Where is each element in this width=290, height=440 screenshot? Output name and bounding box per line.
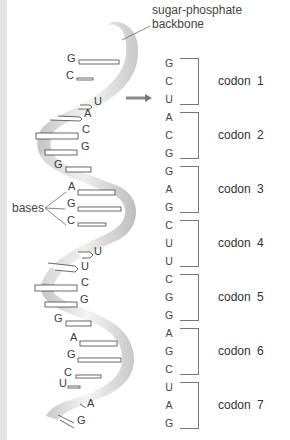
sequence-base: G bbox=[164, 309, 174, 321]
sequence-base: C bbox=[164, 363, 174, 375]
helix-base-9: G bbox=[67, 197, 76, 209]
helix-base-4: A bbox=[84, 107, 91, 119]
helix-base-17: G bbox=[67, 348, 76, 360]
helix-base-21: G bbox=[77, 414, 86, 426]
sequence-base: U bbox=[164, 381, 174, 393]
sequence-base: U bbox=[164, 93, 174, 105]
codon-bracket bbox=[180, 274, 199, 321]
bases-leader-a bbox=[45, 192, 66, 208]
helix-base-2: C bbox=[66, 69, 74, 81]
sequence-base: G bbox=[164, 57, 174, 69]
helix-base-3: U bbox=[94, 95, 102, 107]
helix-base-15: G bbox=[54, 312, 63, 324]
sequence-base: U bbox=[164, 237, 174, 249]
helix-base-11: U bbox=[94, 245, 102, 257]
codon-bracket bbox=[180, 382, 199, 429]
codon-label-1: codon 1 bbox=[218, 74, 264, 88]
bases-leader-c bbox=[45, 208, 66, 225]
sequence-base: A bbox=[164, 399, 174, 411]
sequence-base: C bbox=[164, 273, 174, 285]
bases-label: bases bbox=[12, 201, 44, 215]
helix-base-19: U bbox=[59, 377, 67, 389]
helix-base-10: C bbox=[67, 214, 75, 226]
codon-bracket bbox=[180, 112, 199, 159]
backbone-label: sugar-phosphate backbone bbox=[152, 3, 242, 31]
sequence-base: G bbox=[164, 345, 174, 357]
sequence-base: G bbox=[164, 201, 174, 213]
helix-base-16: A bbox=[70, 331, 77, 343]
helix-base-6: G bbox=[81, 140, 90, 152]
sequence-base: A bbox=[164, 183, 174, 195]
sequence-base: A bbox=[164, 327, 174, 339]
helix-base-20: A bbox=[87, 397, 94, 409]
codon-label-2: codon 2 bbox=[218, 128, 264, 142]
sequence-base: A bbox=[164, 111, 174, 123]
helix-base-8: A bbox=[68, 180, 75, 192]
sequence-base: G bbox=[164, 291, 174, 303]
helix-base-13: C bbox=[81, 276, 89, 288]
sequence-base: C bbox=[164, 129, 174, 141]
codon-bracket bbox=[180, 166, 199, 213]
codon-bracket bbox=[180, 58, 199, 105]
sequence-base: U bbox=[164, 255, 174, 267]
sequence-base: G bbox=[164, 165, 174, 177]
codon-label-4: codon 4 bbox=[218, 236, 264, 250]
codon-label-6: codon 6 bbox=[218, 344, 264, 358]
backbone-label-line1: sugar-phosphate bbox=[152, 3, 242, 17]
codon-label-5: codon 5 bbox=[218, 290, 264, 304]
helix-base-12: U bbox=[81, 260, 89, 272]
helix-base-1: G bbox=[67, 52, 76, 64]
backbone-label-line2: backbone bbox=[152, 17, 242, 31]
sequence-base: C bbox=[164, 219, 174, 231]
arrow-icon bbox=[126, 94, 152, 102]
dna-helix-illustration bbox=[0, 0, 290, 440]
helix-base-5: C bbox=[82, 123, 90, 135]
helix-base-14: G bbox=[80, 293, 89, 305]
helix-base-7: G bbox=[54, 158, 63, 170]
sequence-base: G bbox=[164, 147, 174, 159]
codon-label-7: codon 7 bbox=[218, 398, 264, 412]
sequence-base: C bbox=[164, 75, 174, 87]
codon-label-3: codon 3 bbox=[218, 182, 264, 196]
codon-bracket bbox=[180, 328, 199, 375]
codon-bracket bbox=[180, 220, 199, 267]
bases-leader-g bbox=[45, 208, 65, 209]
sequence-base: G bbox=[164, 417, 174, 429]
